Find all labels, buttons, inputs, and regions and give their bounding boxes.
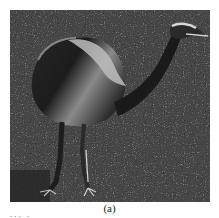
figure-image bbox=[10, 10, 210, 202]
cropped-text-fragment: ... . bbox=[10, 211, 31, 218]
rhea-photo bbox=[10, 10, 210, 202]
figure-caption: (a) bbox=[0, 202, 219, 215]
